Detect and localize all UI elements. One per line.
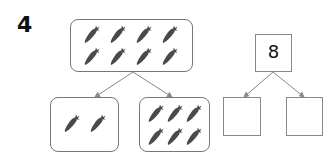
number-bond-whole-box: 8 — [255, 34, 292, 72]
carrot-icon — [161, 46, 179, 66]
carrot-icon — [166, 126, 184, 146]
carrot-icon — [185, 126, 203, 146]
number-bond-part-right-box[interactable] — [286, 97, 323, 136]
carrot-icon — [89, 113, 107, 133]
carrot-icon — [109, 24, 127, 44]
carrot-icon — [135, 24, 153, 44]
carrot-icon — [166, 103, 184, 123]
whole-picture-box — [70, 19, 193, 72]
carrot-icon — [63, 113, 81, 133]
carrot-icon — [161, 24, 179, 44]
carrot-icon — [147, 103, 165, 123]
carrot-icon — [83, 24, 101, 44]
carrot-icon — [83, 46, 101, 66]
carrot-icon — [135, 46, 153, 66]
carrot-icon — [147, 126, 165, 146]
carrot-icon — [185, 103, 203, 123]
number-bond-whole-value: 8 — [256, 41, 291, 62]
part-right-picture-box — [139, 97, 210, 152]
carrot-icon — [109, 46, 127, 66]
part-left-picture-box — [50, 97, 119, 152]
number-bond-part-left-box[interactable] — [223, 97, 261, 136]
